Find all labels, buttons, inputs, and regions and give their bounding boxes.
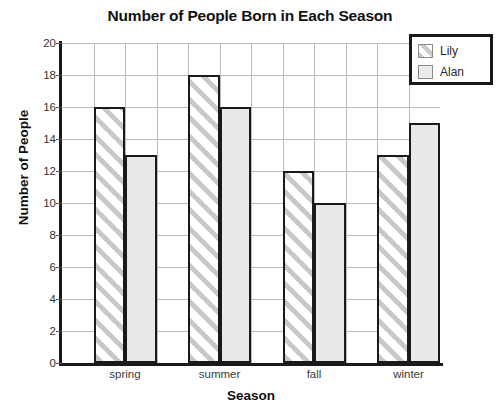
x-axis-tick-labels: springsummerfallwinter <box>62 368 440 386</box>
gridline-vertical <box>346 43 347 363</box>
bar-fall-lily <box>283 171 315 363</box>
bar-winter-lily <box>377 155 409 363</box>
y-axis-tick-labels: 02468101214161820 <box>26 43 56 363</box>
y-axis-tick-label: 16 <box>30 101 56 113</box>
bar-summer-lily <box>188 75 220 363</box>
y-axis-tick-mark <box>56 363 62 364</box>
y-axis-tick-label: 4 <box>30 293 56 305</box>
legend-swatch-lily <box>418 44 433 58</box>
bar-summer-alan <box>220 107 252 363</box>
legend-swatch-alan <box>418 65 433 79</box>
legend-label-lily: Lily <box>440 44 458 58</box>
y-axis-tick-label: 2 <box>30 325 56 337</box>
y-axis-tick-label: 18 <box>30 69 56 81</box>
gridline-vertical <box>157 43 158 363</box>
x-axis-tick-label: fall <box>307 368 322 380</box>
y-axis-tick-label: 14 <box>30 133 56 145</box>
bar-spring-lily <box>94 107 126 363</box>
chart-legend: LilyAlan <box>409 34 493 85</box>
x-axis-tick-label: summer <box>199 368 241 380</box>
bar-fall-alan <box>314 203 346 363</box>
y-axis-tick-label: 20 <box>30 37 56 49</box>
legend-label-alan: Alan <box>440 65 464 79</box>
bar-spring-alan <box>125 155 157 363</box>
y-axis-tick-label: 0 <box>30 357 56 369</box>
chart-title: Number of People Born in Each Season <box>0 7 500 25</box>
y-axis-tick-label: 8 <box>30 229 56 241</box>
x-axis-tick-label: winter <box>393 368 424 380</box>
legend-item-alan: Alan <box>418 61 490 82</box>
x-axis-tick-label: spring <box>109 368 140 380</box>
y-axis-tick-label: 6 <box>30 261 56 273</box>
x-axis-line <box>59 363 443 366</box>
y-axis-tick-label: 10 <box>30 197 56 209</box>
gridline-vertical <box>251 43 252 363</box>
gridline-horizontal <box>62 75 440 76</box>
bar-winter-alan <box>409 123 441 363</box>
bar-chart: Number of People Born in Each Season 024… <box>0 0 500 413</box>
y-axis-title: Number of People <box>16 73 31 263</box>
y-axis-tick-label: 12 <box>30 165 56 177</box>
gridline-horizontal <box>62 43 440 44</box>
x-axis-title: Season <box>62 388 440 403</box>
plot-area <box>62 43 440 363</box>
legend-item-lily: Lily <box>418 40 490 61</box>
